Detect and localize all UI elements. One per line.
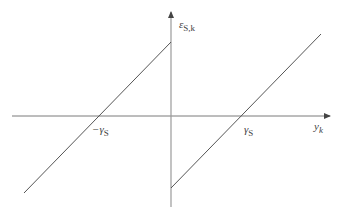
right-line-segment [171, 34, 321, 188]
x-axis-label: yk [313, 120, 324, 135]
neg-gamma-label: −γS [92, 123, 109, 138]
left-line-segment [24, 42, 171, 193]
diagram-canvas: εS,k yk −γS γS [0, 0, 343, 212]
pos-gamma-label: γS [244, 123, 253, 138]
y-axis-label: εS,k [179, 18, 196, 33]
